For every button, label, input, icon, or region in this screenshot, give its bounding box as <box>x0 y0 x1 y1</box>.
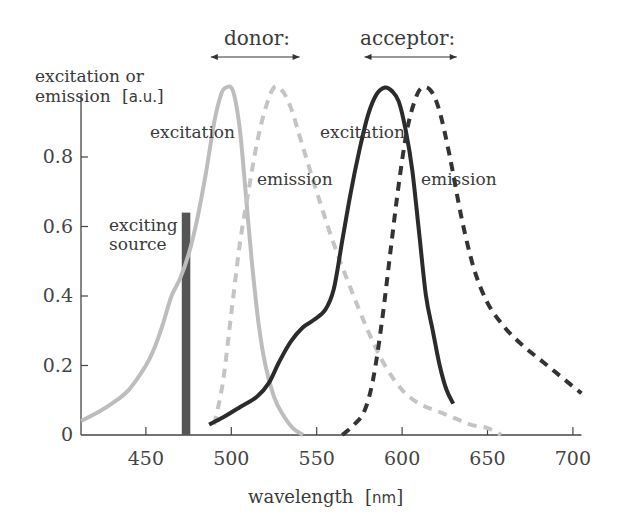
y-axis-label-line1: excitation or <box>35 66 144 86</box>
x-axis-label: wavelength [nm] <box>248 487 403 508</box>
acceptor-group-label: acceptor: <box>360 28 455 48</box>
acceptor-excitation-label: excitation <box>320 122 405 142</box>
y-tick-label: 0.8 <box>23 145 73 167</box>
y-tick-label: 0.2 <box>23 354 73 376</box>
arrow-head-left-icon <box>211 54 218 60</box>
arrow-head-left-icon <box>365 54 372 60</box>
acceptor-range-arrow <box>365 54 457 60</box>
acceptor-emission-label: emission <box>421 169 497 189</box>
x-tick-label: 700 <box>543 447 603 469</box>
donor-group-label: donor: <box>224 28 290 48</box>
x-tick-label: 600 <box>372 447 432 469</box>
axes <box>81 94 581 435</box>
exciting-source-label-line1: exciting <box>109 215 178 235</box>
y-axis-unit: [a.u.] <box>122 86 164 106</box>
y-axis-label-line2: emission [a.u.] <box>35 86 164 107</box>
y-tick-label: 0.6 <box>23 215 73 237</box>
donor-range-arrow <box>211 54 300 60</box>
arrow-head-right-icon <box>450 54 457 60</box>
x-tick-label: 650 <box>458 447 518 469</box>
x-tick-label: 500 <box>201 447 261 469</box>
donor-emission-label: emission <box>257 169 333 189</box>
x-axis-unit: [nm] <box>365 486 403 507</box>
y-tick-label: 0.4 <box>23 284 73 306</box>
x-tick-label: 550 <box>287 447 347 469</box>
group-arrows <box>211 54 457 60</box>
arrow-head-right-icon <box>293 54 300 60</box>
y-axis-label-text: emission <box>35 86 111 106</box>
donor-excitation-label: excitation <box>150 122 235 142</box>
x-axis-label-text: wavelength <box>248 486 353 507</box>
exciting-source-label-line2: source <box>109 234 167 254</box>
x-tick-label: 450 <box>116 447 176 469</box>
y-tick-label: 0 <box>23 423 73 445</box>
